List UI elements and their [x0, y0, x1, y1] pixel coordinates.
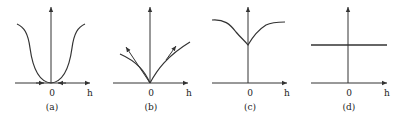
- origin-label-a: 0: [49, 88, 55, 98]
- curve-right: [150, 42, 190, 83]
- axis-label-d: h: [384, 88, 390, 98]
- panel-a: [15, 7, 90, 83]
- origin-label-d: 0: [346, 88, 352, 98]
- tangent-left: [126, 47, 150, 83]
- caption-c: (c): [244, 102, 256, 112]
- caption-a: (a): [46, 102, 58, 112]
- figure-canvas: [0, 0, 403, 117]
- curve-left: [120, 54, 150, 83]
- axis-label-a: h: [87, 88, 93, 98]
- axis-label-b: h: [186, 88, 192, 98]
- origin-label-b: 0: [148, 88, 154, 98]
- panel-c: [212, 7, 287, 83]
- caption-d: (d): [343, 102, 356, 112]
- axis-label-c: h: [284, 88, 290, 98]
- panel-b: [113, 7, 190, 83]
- caption-b: (b): [145, 102, 158, 112]
- panel-d: [311, 7, 387, 83]
- origin-label-c: 0: [247, 88, 253, 98]
